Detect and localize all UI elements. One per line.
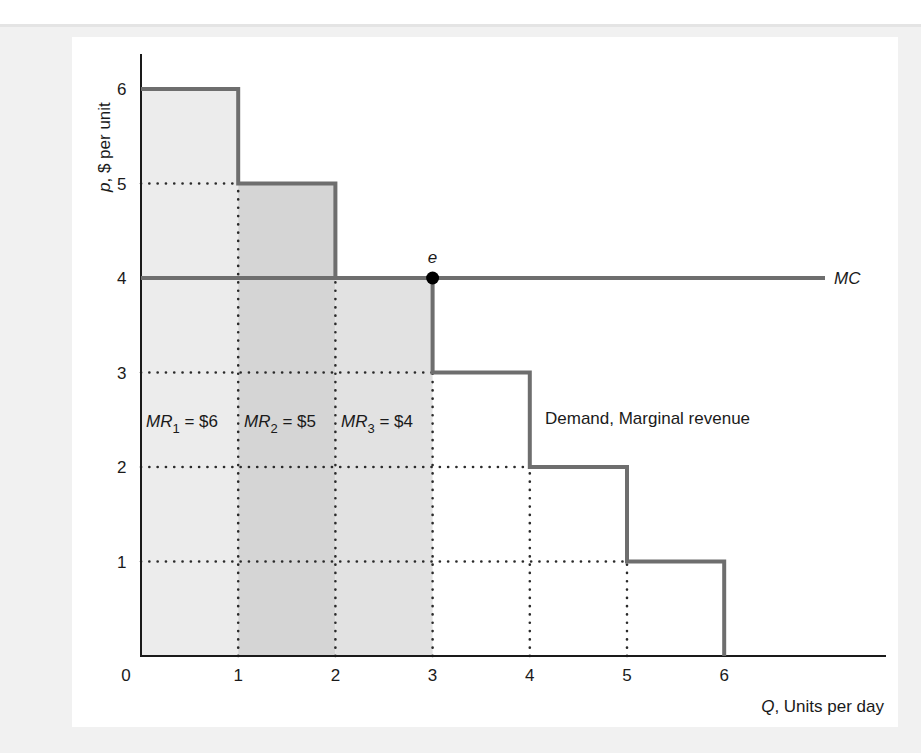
mr-label-subscript: 1 [172,421,179,436]
x-axis-label: Q, Units per day [761,697,884,716]
x-tick-4: 4 [525,666,534,685]
x-tick-2: 2 [331,666,340,685]
y-axis-label-var: p [95,183,114,193]
equilibrium-point-marker [426,272,439,285]
mr-label-symbol: MR [341,412,367,431]
mr-area-3 [335,278,432,656]
x-tick-6: 6 [719,666,728,685]
y-tick-5: 5 [117,175,126,194]
mr-label-value: = $4 [375,412,413,431]
mr-label-symbol: MR [244,412,270,431]
x-axis-label-rest: , Units per day [774,697,884,716]
x-tick-1: 1 [233,666,242,685]
mr-label-value: = $6 [180,412,218,431]
y-axis-label: p, $ per unit [95,102,114,193]
mr-label-value: = $5 [278,412,316,431]
step-demand-chart: 1234560123456p, $ per unitQ, Units per d… [0,0,921,753]
mr-label-subscript: 3 [367,421,374,436]
y-tick-3: 3 [117,364,126,383]
x-tick-3: 3 [428,666,437,685]
equilibrium-label-e: e [428,248,437,267]
demand-mr-label: Demand, Marginal revenue [545,409,750,428]
y-tick-4: 4 [117,269,126,288]
mr-label-subscript: 2 [270,421,277,436]
x-axis-label-var: Q [761,697,774,716]
x-tick-5: 5 [622,666,631,685]
x-tick-0: 0 [121,666,130,685]
y-tick-6: 6 [117,80,126,99]
y-tick-1: 1 [117,553,126,572]
y-axis-label-rest: , $ per unit [95,102,114,183]
mc-label: MC [834,269,861,288]
y-tick-2: 2 [117,458,126,477]
mr-label-symbol: MR [146,412,172,431]
